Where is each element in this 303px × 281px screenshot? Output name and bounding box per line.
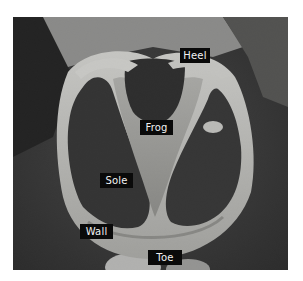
label-sole: Sole xyxy=(100,173,133,188)
label-wall: Wall xyxy=(80,224,113,239)
label-frog: Frog xyxy=(140,120,173,135)
label-heel: Heel xyxy=(180,48,210,63)
hoof-illustration xyxy=(13,17,288,270)
label-toe: Toe xyxy=(148,250,182,265)
hoof-photo xyxy=(13,17,288,270)
